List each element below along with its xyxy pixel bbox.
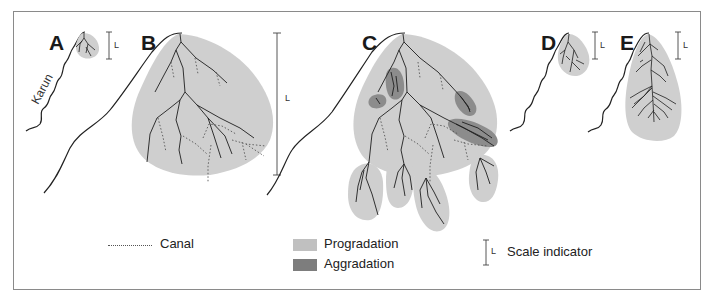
lobe-d [558,34,590,76]
legend-aggradation-label: Aggradation [324,256,394,271]
scale-label-a: L [114,40,119,50]
panel-label-b: B [141,31,156,54]
lobe-c-sub-4 [469,155,498,202]
scale-label-e: L [683,40,688,50]
panel-label-c: C [362,31,377,54]
lobe-c-sub-2 [386,158,414,208]
lobe-c-sub-3 [413,167,449,231]
legend-aggradation-swatch [293,259,317,271]
scale-label-b: L [285,93,290,103]
legend-canal-label: Canal [160,236,194,251]
panel-c: C [267,31,498,231]
lobe-b [132,34,273,176]
scale-label-d: L [600,40,605,50]
lobe-c-sub-1 [348,163,383,220]
panel-label-e: E [620,31,634,54]
panel-d: L D [510,31,605,131]
legend-progradation-swatch [293,239,317,251]
panel-label-d: D [541,31,556,54]
scale-bar-a [106,32,112,59]
scale-bar-d [592,32,598,59]
river-name-karun: Karun [28,72,55,107]
legend-progradation-label: Progradation [324,236,398,251]
legend-canal-line [108,245,152,246]
scale-bar-e [675,32,681,59]
legend-scale-label: Scale indicator [507,244,592,259]
scale-bar-b [273,33,281,175]
legend-scale-icon [483,240,489,265]
panel-label-a: A [49,31,64,54]
legend-scale-symbol: L [491,246,496,256]
